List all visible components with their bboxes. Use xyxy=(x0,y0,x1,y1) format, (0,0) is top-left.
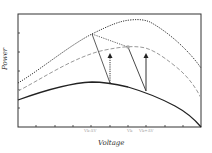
line-peak-to-left-point xyxy=(92,34,110,83)
plot-frame xyxy=(18,14,201,127)
y-axis-label: Power xyxy=(1,48,9,70)
dotted-arrow-head-icon xyxy=(108,53,113,58)
line-marker-to-right-point xyxy=(128,47,146,91)
x-tick-label-vk: Vk xyxy=(127,128,132,133)
x-tick-label-vk-plus: Vk+ΔV xyxy=(139,128,153,133)
x-tick-label-vk-minus: Vk-ΔV xyxy=(84,128,96,133)
line-peak-to-marker xyxy=(92,34,128,47)
solid-arrow-head-icon xyxy=(144,53,149,58)
lower-solid-curve xyxy=(18,82,201,127)
upper-dotted-curve xyxy=(18,20,201,83)
x-axis-label: Voltage xyxy=(98,139,124,147)
operating-point-marker xyxy=(126,45,130,49)
pv-power-voltage-diagram xyxy=(0,0,212,153)
